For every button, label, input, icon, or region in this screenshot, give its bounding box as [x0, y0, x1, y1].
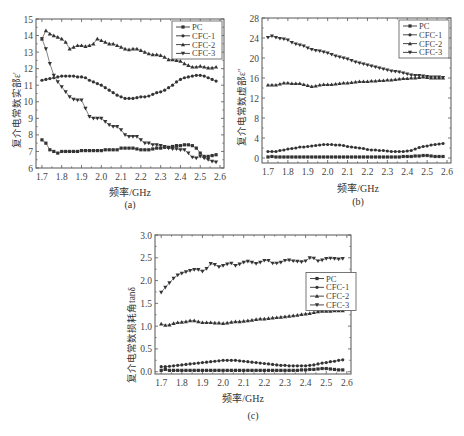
square-marker [315, 277, 318, 280]
circle-marker [292, 364, 295, 367]
square-marker [221, 369, 224, 372]
square-marker [139, 148, 142, 151]
square-marker [426, 154, 429, 157]
x-tick-label: 2.3 [155, 172, 167, 182]
square-marker [175, 144, 178, 147]
square-marker [191, 144, 194, 147]
square-marker [259, 369, 262, 372]
square-marker [333, 368, 336, 371]
circle-marker [433, 143, 436, 146]
x-tick-label: 2.4 [175, 172, 187, 182]
circle-marker [314, 144, 317, 147]
square-marker [250, 369, 253, 372]
square-marker [378, 155, 381, 158]
circle-marker [267, 362, 270, 365]
circle-marker [263, 362, 266, 365]
square-marker [406, 155, 409, 158]
circle-marker [271, 363, 274, 366]
circle-marker [298, 145, 301, 148]
circle-marker [160, 365, 163, 368]
circle-marker [131, 97, 134, 100]
square-marker [127, 147, 130, 150]
circle-marker [193, 362, 196, 365]
square-marker [267, 369, 270, 372]
y-tick-label: 6 [28, 164, 33, 174]
y-tick-label: 20 [250, 54, 260, 64]
square-marker [308, 368, 311, 371]
x-tick-label: 2.2 [362, 167, 374, 177]
circle-marker [135, 96, 138, 99]
circle-marker [282, 148, 285, 151]
square-marker [346, 155, 349, 158]
circle-marker [234, 359, 237, 362]
series-cfc-1 [160, 358, 345, 368]
square-marker [112, 148, 115, 151]
circle-marker [350, 145, 353, 148]
triangle-down-marker [200, 270, 204, 274]
circle-marker [80, 75, 83, 78]
circle-marker [302, 145, 305, 148]
square-marker [160, 369, 163, 372]
triangle-down-marker [68, 95, 72, 99]
circle-marker [230, 359, 233, 362]
circle-marker [176, 364, 179, 367]
circle-marker [418, 146, 421, 149]
chart-panel-a: 1.71.81.92.02.12.22.32.42.52.66789101112… [0, 0, 232, 215]
x-tick-label: 1.9 [197, 378, 209, 388]
triangle-down-marker [233, 264, 237, 268]
circle-marker [56, 75, 59, 78]
square-marker [226, 369, 229, 372]
circle-marker [159, 90, 162, 93]
square-marker [433, 155, 436, 158]
circle-marker [127, 97, 130, 100]
circle-marker [426, 144, 429, 147]
square-marker [354, 155, 357, 158]
square-marker [168, 369, 171, 372]
square-marker [201, 369, 204, 372]
square-marker [92, 149, 95, 152]
square-marker [80, 149, 83, 152]
square-marker [76, 150, 79, 153]
x-tick-label: 2.5 [421, 167, 433, 177]
circle-marker [250, 361, 253, 364]
circle-marker [88, 79, 91, 82]
chart-c-caption: (c) [233, 410, 273, 421]
square-marker [330, 155, 333, 158]
circle-marker [175, 80, 178, 83]
circle-marker [337, 359, 340, 362]
circle-marker [167, 86, 170, 89]
series-pc [160, 367, 345, 372]
circle-marker [310, 144, 313, 147]
circle-marker [214, 79, 217, 82]
circle-marker [274, 150, 277, 153]
circle-marker [338, 143, 341, 146]
circle-marker [394, 150, 397, 153]
square-marker [131, 147, 134, 150]
y-tick-label: 2.0 [140, 276, 152, 286]
chart-panel-b: 1.71.81.92.02.12.22.32.42.52.60481216202… [232, 0, 464, 215]
circle-marker [300, 364, 303, 367]
circle-marker [60, 75, 63, 78]
circle-marker [382, 149, 385, 152]
triangle-down-marker [44, 47, 48, 51]
square-marker [266, 155, 269, 158]
y-tick-label: 7 [28, 147, 33, 157]
circle-marker [211, 78, 214, 81]
circle-marker [406, 149, 409, 152]
circle-marker [44, 78, 47, 81]
legend-entry-label: CFC-3 [192, 48, 215, 58]
circle-marker [155, 91, 158, 94]
square-marker [100, 149, 103, 152]
circle-marker [217, 359, 220, 362]
y-tick-label: 0.5 [140, 344, 152, 354]
square-marker [286, 155, 289, 158]
circle-marker [203, 75, 206, 78]
circle-marker [386, 149, 389, 152]
chart-a-caption: (a) [110, 199, 150, 210]
square-marker [238, 369, 241, 372]
circle-marker [390, 150, 393, 153]
circle-marker [290, 147, 293, 150]
circle-marker [172, 364, 175, 367]
circle-marker [441, 142, 444, 145]
square-marker [350, 155, 353, 158]
